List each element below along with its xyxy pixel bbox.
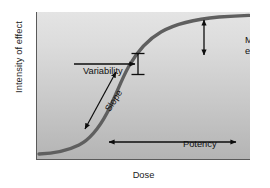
x-axis-label: Dose	[36, 170, 251, 180]
y-axis-label: Intensity of effect	[14, 2, 24, 112]
maximal-effect-label-line2: effect	[245, 46, 250, 57]
plot-graphics	[37, 12, 250, 160]
potency-label: Potency	[183, 139, 217, 150]
maximal-effect-label-line1: Maximal	[245, 35, 250, 46]
variability-label: Variability	[83, 66, 123, 77]
plot-area: Variability Slope Potency Maximal effect	[36, 12, 250, 160]
dose-response-curve	[39, 15, 249, 154]
maximal-effect-label: Maximal effect	[245, 35, 250, 56]
dose-response-figure: Intensity of effect Variab	[0, 0, 270, 188]
